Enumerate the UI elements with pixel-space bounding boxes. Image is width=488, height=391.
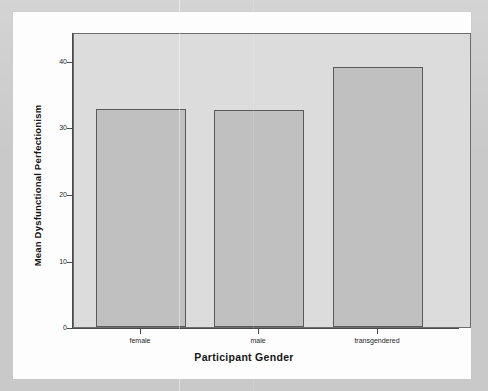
y-tick-label-40: 40 <box>41 58 67 65</box>
y-tick-30 <box>67 128 73 129</box>
plot-inner <box>74 34 470 327</box>
y-tick-40 <box>67 62 73 63</box>
y-tick-0 <box>67 328 73 329</box>
x-tick-male <box>258 329 259 334</box>
y-axis-title: Mean Dysfunctional Perfectionism <box>32 86 43 286</box>
bar-transgendered[interactable] <box>333 67 423 327</box>
x-tick-label-male: male <box>250 337 265 345</box>
x-axis-line <box>72 328 459 329</box>
y-tick-10 <box>67 262 73 263</box>
x-tick-transgendered <box>377 329 378 334</box>
x-tick-label-female: female <box>129 337 150 345</box>
y-tick-label-0: 0 <box>41 324 67 331</box>
y-axis-line <box>72 33 73 329</box>
bar-female[interactable] <box>96 109 186 327</box>
y-tick-label-10: 10 <box>41 258 67 265</box>
x-tick-female <box>140 329 141 334</box>
plot-area <box>73 33 471 328</box>
y-tick-label-30: 30 <box>41 124 67 131</box>
bar-male[interactable] <box>214 110 304 327</box>
x-axis-title: Participant Gender <box>0 351 488 363</box>
y-tick-label-20: 20 <box>41 191 67 198</box>
y-tick-20 <box>67 195 73 196</box>
figure-card <box>13 12 471 379</box>
x-tick-label-transgendered: transgendered <box>354 337 399 345</box>
